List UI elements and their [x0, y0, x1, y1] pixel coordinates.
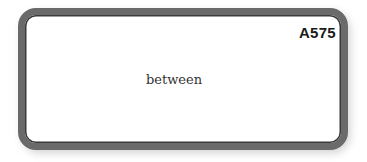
flashcard: A575 between — [18, 8, 348, 150]
card-code: A575 — [299, 24, 336, 41]
card-word: between — [25, 72, 341, 87]
